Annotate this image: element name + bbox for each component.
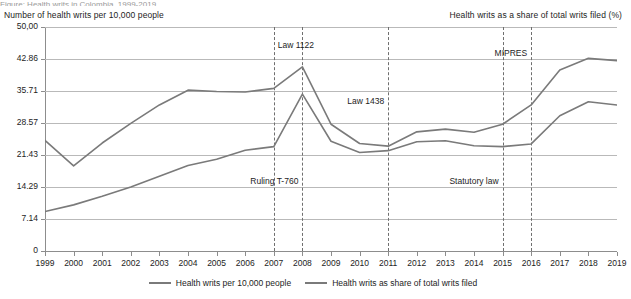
x-axis-tick-mark (503, 252, 504, 256)
x-axis-tick-mark (560, 252, 561, 256)
x-axis-tick-mark (360, 252, 361, 256)
y-axis-tick-label: 50,00 (0, 21, 38, 31)
legend-swatch (305, 282, 327, 284)
left-axis-title: Number of health writs per 10,000 people (4, 10, 164, 20)
x-axis-tick-mark (617, 252, 618, 256)
y-axis-tick-label: 0 (0, 245, 38, 255)
legend-label: Health writs per 10,000 people (176, 278, 291, 288)
x-axis-tick-mark (188, 252, 189, 256)
series-line-writs-per-10000 (45, 94, 617, 211)
plot-area (45, 27, 617, 251)
legend-swatch (149, 282, 171, 284)
chart-legend: Health writs per 10,000 peopleHealth wri… (0, 278, 626, 288)
x-axis-tick-mark (302, 252, 303, 256)
x-axis-tick-mark (159, 252, 160, 256)
series-line-share-of-total (45, 58, 617, 166)
x-axis-tick-mark (245, 252, 246, 256)
legend-item: Health writs as share of total writs fil… (305, 278, 477, 288)
y-axis-tick-label: 21.43 (0, 149, 38, 159)
x-axis-tick-mark (45, 252, 46, 256)
x-axis-tick-mark (74, 252, 75, 256)
x-axis-tick-mark (331, 252, 332, 256)
x-axis-tick-mark (131, 252, 132, 256)
x-axis-tick-mark (531, 252, 532, 256)
x-axis-tick-mark (102, 252, 103, 256)
y-axis-tick-label: 35.71 (0, 85, 38, 95)
x-axis-tick-label: 2019 (597, 258, 631, 268)
legend-label: Health writs as share of total writs fil… (332, 278, 477, 288)
x-axis-tick-mark (217, 252, 218, 256)
figure-title: Figure: Health writs in Colombia, 1999-2… (0, 0, 626, 6)
x-axis-tick-mark (445, 252, 446, 256)
x-axis-tick-mark (588, 252, 589, 256)
x-axis-tick-mark (474, 252, 475, 256)
x-axis-tick-mark (274, 252, 275, 256)
right-axis-title: Health writs as a share of total writs f… (450, 10, 623, 20)
x-axis-tick-mark (417, 252, 418, 256)
x-axis-tick-mark (388, 252, 389, 256)
y-axis-tick-label: 7.14 (0, 213, 38, 223)
legend-item: Health writs per 10,000 people (149, 278, 291, 288)
y-axis-tick-label: 28.57 (0, 117, 38, 127)
